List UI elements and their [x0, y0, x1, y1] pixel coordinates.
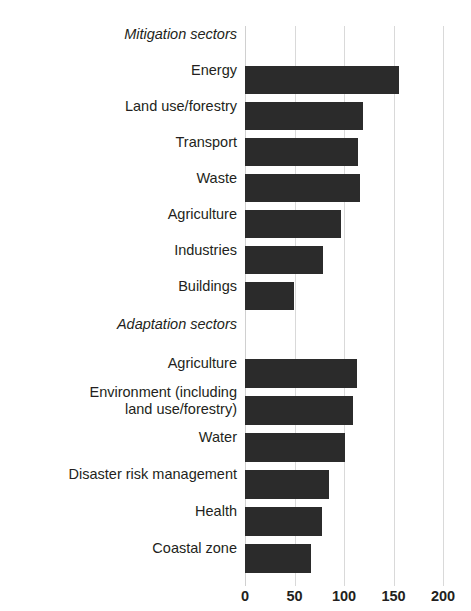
- x-tick-200: 200: [431, 588, 455, 604]
- section-header-adaptation: Adaptation sectors: [245, 316, 443, 352]
- bar-water: [245, 433, 345, 462]
- bar-label-waste: Waste: [7, 170, 237, 187]
- bar-label-health: Health: [7, 503, 237, 520]
- bar-disaster-risk-management: [245, 470, 329, 499]
- x-tick-100: 100: [332, 588, 356, 604]
- bar-label-water: Water: [7, 429, 237, 446]
- x-tick-0: 0: [241, 588, 249, 604]
- section-label-mitigation: Mitigation sectors: [7, 26, 237, 43]
- bar-row-industries: Industries: [245, 242, 443, 278]
- bar-row-waste: Waste: [245, 170, 443, 206]
- horizontal-bar-chart: Mitigation sectors Energy Land use/fores…: [0, 0, 471, 611]
- bar-row-water: Water: [245, 429, 443, 465]
- bar-label-agriculture-adaptation: Agriculture: [7, 355, 237, 372]
- bar-label-land-use-forestry: Land use/forestry: [7, 98, 237, 115]
- bar-label-coastal-zone: Coastal zone: [7, 540, 237, 557]
- bar-buildings: [245, 282, 294, 310]
- bar-health: [245, 507, 322, 536]
- bar-label-transport: Transport: [7, 134, 237, 151]
- section-header-mitigation: Mitigation sectors: [245, 26, 443, 62]
- x-tick-50: 50: [286, 588, 302, 604]
- bar-row-environment: Environment (including land use/forestry…: [245, 392, 443, 428]
- bar-label-environment: Environment (including land use/forestry…: [7, 384, 237, 418]
- bar-row-agriculture-adaptation: Agriculture: [245, 355, 443, 391]
- bar-row-buildings: Buildings: [245, 278, 443, 314]
- bar-environment: [245, 396, 353, 425]
- bar-row-land-use-forestry: Land use/forestry: [245, 98, 443, 134]
- bar-row-coastal-zone: Coastal zone: [245, 540, 443, 576]
- gridline-200: [443, 26, 444, 586]
- bar-industries: [245, 246, 323, 274]
- x-axis: 0 50 100 150 200: [245, 588, 443, 610]
- bar-energy: [245, 66, 399, 94]
- bar-row-energy: Energy: [245, 62, 443, 98]
- bar-row-disaster-risk-management: Disaster risk management: [245, 466, 443, 502]
- bar-agriculture-mitigation: [245, 210, 341, 238]
- x-tick-150: 150: [381, 588, 405, 604]
- bar-land-use-forestry: [245, 102, 363, 130]
- bar-transport: [245, 138, 358, 166]
- bar-row-transport: Transport: [245, 134, 443, 170]
- bar-waste: [245, 174, 360, 202]
- bar-label-agriculture-mitigation: Agriculture: [7, 206, 237, 223]
- plot-area: Mitigation sectors Energy Land use/fores…: [245, 26, 443, 586]
- bar-agriculture-adaptation: [245, 359, 357, 388]
- bar-label-disaster-risk-management: Disaster risk management: [7, 466, 237, 483]
- bar-label-energy: Energy: [7, 62, 237, 79]
- bar-coastal-zone: [245, 544, 311, 573]
- bar-row-health: Health: [245, 503, 443, 539]
- section-label-adaptation: Adaptation sectors: [7, 316, 237, 333]
- bar-label-buildings: Buildings: [7, 278, 237, 295]
- bar-row-agriculture-mitigation: Agriculture: [245, 206, 443, 242]
- bar-label-industries: Industries: [7, 242, 237, 259]
